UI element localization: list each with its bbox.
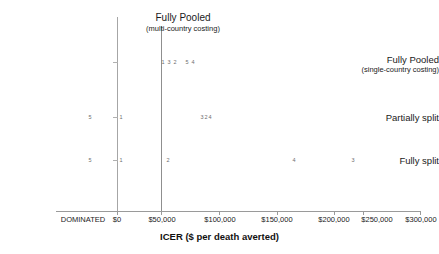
data-point: 4 [292, 157, 295, 163]
data-point: 3 [167, 59, 170, 65]
y-tick-fully-split [113, 160, 118, 161]
category-label-text: Fully Pooled [387, 54, 439, 65]
category-label-text: Fully split [399, 155, 439, 166]
category-sublabel-text: (single-country costing) [329, 65, 439, 74]
data-point: 2 [166, 157, 169, 163]
x-tick-label-150000: $150,000 [261, 215, 292, 224]
data-point: 5 [88, 157, 91, 163]
x-tick-label-50000: $50,000 [148, 215, 175, 224]
data-point: 5 [185, 59, 188, 65]
data-point: 2 [173, 59, 176, 65]
annotation-label: Fully Pooled [155, 12, 210, 23]
annotation-sublabel: (multi-country costing) [118, 24, 248, 34]
category-label-partially-split: Partially split [329, 112, 439, 123]
data-point: 2 [204, 114, 207, 120]
data-point: 5 [88, 114, 91, 120]
data-point: 1 [119, 157, 122, 163]
data-point: 4 [208, 114, 211, 120]
data-point: 1 [161, 59, 164, 65]
threshold-reference-line [161, 26, 162, 211]
data-point: 4 [191, 59, 194, 65]
annotation-fully-pooled-multi-country: Fully Pooled (multi-country costing) [118, 12, 248, 34]
data-point: 1 [119, 114, 122, 120]
data-point: 3 [200, 114, 203, 120]
category-label-fully-split: Fully split [329, 155, 439, 166]
x-axis-title: ICER ($ per death averted) [0, 231, 439, 242]
x-axis-line [56, 211, 421, 212]
x-tick-label-dominated: DOMINATED [61, 215, 105, 224]
zero-reference-line [117, 17, 118, 211]
x-tick-label-300000: $300,000 [405, 215, 436, 224]
x-tick-label-100000: $100,000 [204, 215, 235, 224]
x-tick-label-0: $0 [113, 215, 121, 224]
icer-chart: Fully Pooled (multi-country costing) Ful… [0, 0, 439, 254]
x-tick-label-200000: $200,000 [318, 215, 349, 224]
y-tick-partially-split [113, 117, 118, 118]
category-label-fully-pooled: Fully Pooled (single-country costing) [329, 54, 439, 74]
x-tick-label-250000: $250,000 [361, 215, 392, 224]
y-tick-fully-pooled [113, 62, 118, 63]
category-label-text: Partially split [386, 112, 439, 123]
data-point: 3 [351, 157, 354, 163]
